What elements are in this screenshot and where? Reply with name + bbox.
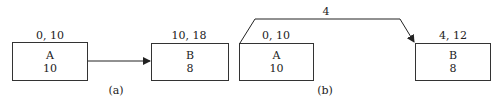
caption-b: (b) (317, 84, 333, 97)
activity-node-b: B 8 (151, 43, 229, 81)
node-duration: 10 (43, 62, 57, 75)
node-b-times: 4, 12 (439, 29, 467, 42)
node-duration: 8 (450, 62, 457, 75)
node-name: B (186, 49, 194, 62)
node-name: A (273, 49, 281, 62)
node-a-times: 0, 10 (262, 29, 290, 42)
node-duration: 10 (270, 62, 284, 75)
lead-label: 4 (323, 5, 330, 18)
node-a-times: 0, 10 (36, 29, 64, 42)
activity-node-a: A 10 (239, 43, 314, 81)
node-name: A (46, 49, 54, 62)
caption-a: (a) (108, 84, 123, 97)
precedence-diagrams: 0, 10 A 10 10, 18 B 8 (a) 4 0, 10 A 10 4… (0, 0, 504, 100)
node-name: B (449, 49, 457, 62)
activity-node-a: A 10 (12, 42, 88, 81)
activity-node-b: B 8 (415, 43, 491, 81)
node-duration: 8 (187, 62, 194, 75)
node-b-times: 10, 18 (172, 29, 207, 42)
